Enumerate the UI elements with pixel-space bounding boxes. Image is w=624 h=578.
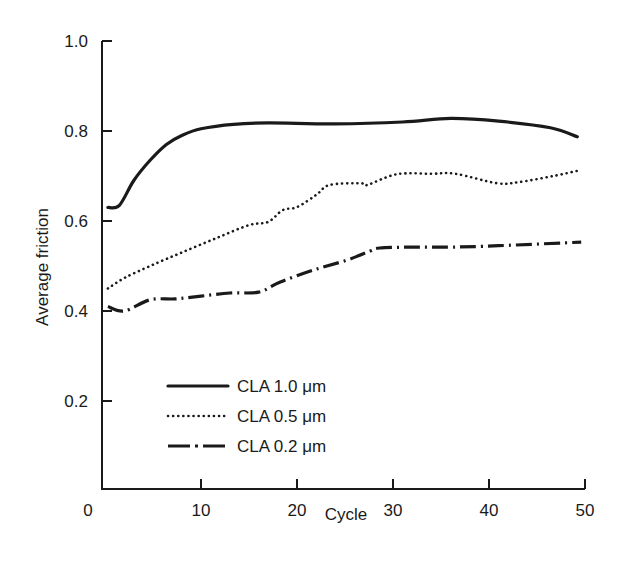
y-tick-label: 0.2 bbox=[64, 392, 88, 411]
x-tick-label: 40 bbox=[480, 501, 499, 520]
y-tick-label: 0.8 bbox=[64, 122, 88, 141]
legend-label-1: CLA 1.0 μm bbox=[237, 377, 326, 396]
y-tick-label: 0.6 bbox=[64, 212, 88, 231]
legend-label-2: CLA 0.5 μm bbox=[237, 407, 326, 426]
y-tick-label: 1.0 bbox=[64, 32, 88, 51]
axes: 0.20.40.60.81.001020304050 bbox=[64, 32, 594, 520]
axis-lines bbox=[102, 41, 585, 489]
x-tick-label: 0 bbox=[83, 501, 92, 520]
x-axis-title: Cycle bbox=[325, 505, 368, 524]
x-tick-label: 30 bbox=[384, 501, 403, 520]
y-axis-title: Average friction bbox=[33, 208, 52, 326]
series-line-3 bbox=[108, 242, 581, 311]
legend-label-3: CLA 0.2 μm bbox=[237, 437, 326, 456]
x-tick-label: 10 bbox=[192, 501, 211, 520]
legend: CLA 1.0 μmCLA 0.5 μmCLA 0.2 μm bbox=[168, 377, 326, 456]
x-tick-label: 20 bbox=[288, 501, 307, 520]
series-layer bbox=[108, 118, 581, 311]
y-tick-label: 0.4 bbox=[64, 302, 88, 321]
series-line-1 bbox=[108, 118, 577, 208]
friction-chart: 0.20.40.60.81.001020304050 CLA 1.0 μmCLA… bbox=[0, 0, 624, 578]
x-tick-label: 50 bbox=[576, 501, 595, 520]
series-line-2 bbox=[108, 170, 580, 288]
